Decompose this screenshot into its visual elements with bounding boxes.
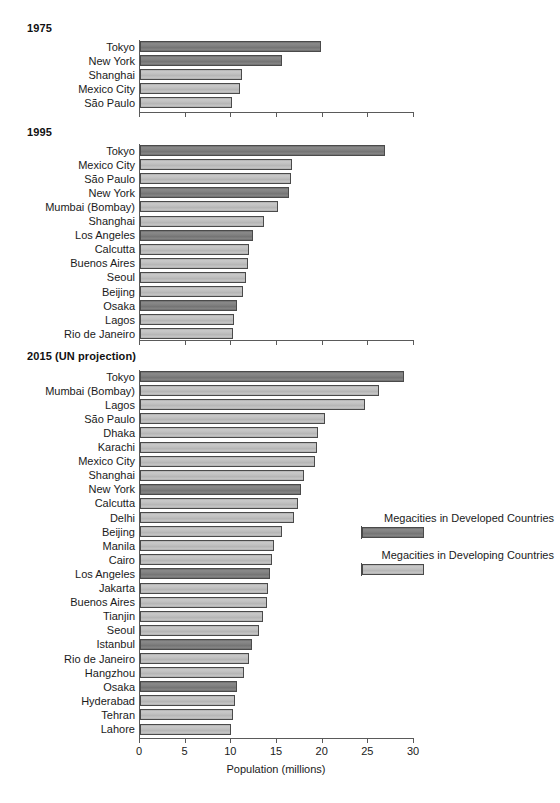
bar-label: Lagos (105, 399, 135, 410)
x-axis-tick (322, 112, 323, 117)
bar-label: Rio de Janeiro (64, 328, 135, 339)
bar-row: Osaka (140, 300, 414, 311)
bar (140, 41, 321, 52)
bar-row: Tokyo (140, 145, 414, 156)
bar-label: New York (89, 55, 135, 66)
bar (140, 328, 233, 339)
panel-title-3: 2015 (UN projection) (27, 350, 136, 362)
bar-row: Dhaka (140, 427, 414, 438)
bar-label: Beijing (102, 526, 135, 537)
bar-row: Tokyo (140, 41, 414, 52)
bar (140, 371, 404, 382)
bar-row: Rio de Janeiro (140, 328, 414, 339)
x-axis-tick (185, 112, 186, 117)
x-axis-2 (139, 340, 414, 341)
plot-area-1: TokyoNew YorkShanghaiMexico CitySão Paul… (139, 40, 413, 113)
bar-row: Lagos (140, 314, 414, 325)
bar-row: Rio de Janeiro (140, 653, 414, 664)
legend-label: Megacities in Developing Countries (340, 549, 554, 562)
bar-label: New York (89, 484, 135, 495)
bar (140, 216, 264, 227)
legend-swatch-row (340, 527, 554, 539)
bar-row: Shanghai (140, 69, 414, 80)
x-axis-tick (230, 340, 231, 345)
x-axis-tick (322, 340, 323, 345)
bar-label: São Paulo (84, 413, 135, 424)
bar-row: São Paulo (140, 97, 414, 108)
bar (140, 69, 242, 80)
bar-row: Lagos (140, 399, 414, 410)
bar-row: Mexico City (140, 159, 414, 170)
x-axis-tick (139, 112, 140, 117)
bar-row: Calcutta (140, 244, 414, 255)
bar (140, 625, 259, 636)
x-axis-tick (185, 340, 186, 345)
bar (140, 230, 253, 241)
megacities-population-chart: 1975TokyoNew YorkShanghaiMexico CitySão … (0, 0, 560, 803)
bar (140, 314, 234, 325)
bar (140, 568, 270, 579)
x-axis-tick (367, 340, 368, 345)
x-axis-3: 051015202530 (139, 738, 414, 739)
bar-label: Cairo (109, 554, 135, 565)
x-axis-tick (413, 112, 414, 117)
bar-label: Osaka (103, 681, 135, 692)
x-axis-tick (413, 340, 414, 345)
bar (140, 695, 235, 706)
bar-label: Hangzhou (85, 667, 135, 678)
bar-label: Seoul (107, 272, 135, 283)
bar (140, 597, 267, 608)
bar-label: Hyderabad (81, 695, 135, 706)
bar-label: Shanghai (89, 470, 136, 481)
bar (140, 427, 318, 438)
x-axis-tick (367, 112, 368, 117)
bar-label: Delhi (110, 512, 135, 523)
bar (140, 159, 292, 170)
legend-swatch-developed (362, 527, 424, 538)
bar (140, 512, 294, 523)
bar-row: Hyderabad (140, 695, 414, 706)
bar (140, 385, 379, 396)
bar-row: Mumbai (Bombay) (140, 385, 414, 396)
bar-label: Mexico City (78, 83, 135, 94)
bar-label: Los Angeles (75, 568, 135, 579)
bar-row: Seoul (140, 272, 414, 283)
bar-row: Tokyo (140, 371, 414, 382)
x-axis-tick (276, 112, 277, 117)
bar-row: Los Angeles (140, 230, 414, 241)
x-axis-tick-label: 20 (316, 745, 328, 757)
bar-label: Osaka (103, 300, 135, 311)
bar (140, 709, 233, 720)
x-axis-tick-label: 0 (136, 745, 142, 757)
bar-row: Lahore (140, 724, 414, 735)
bar-label: Mumbai (Bombay) (45, 201, 135, 212)
legend-swatch-row (340, 564, 554, 576)
bar (140, 724, 231, 735)
legend-swatch-developing (362, 564, 424, 575)
x-axis-tick (185, 738, 186, 743)
bar (140, 639, 252, 650)
bar-row: Istanbul (140, 639, 414, 650)
bar (140, 442, 317, 453)
bar-label: Dhaka (103, 427, 135, 438)
chart-legend: Megacities in Developed CountriesMegacit… (340, 512, 554, 586)
legend-entry: Megacities in Developing Countries (340, 549, 554, 576)
bar-label: Los Angeles (75, 230, 135, 241)
bar-row: New York (140, 55, 414, 66)
bar (140, 498, 298, 509)
bar-label: Tehran (101, 709, 135, 720)
bar-label: Seoul (107, 625, 135, 636)
bar-label: Manila (103, 540, 135, 551)
bar-row: Shanghai (140, 216, 414, 227)
bar (140, 286, 243, 297)
bar-label: New York (89, 187, 135, 198)
bar (140, 55, 282, 66)
x-axis-tick (322, 738, 323, 743)
x-axis-title: Population (millions) (226, 763, 325, 775)
bar-label: Buenos Aires (70, 597, 135, 608)
bar (140, 681, 237, 692)
bar-row: São Paulo (140, 173, 414, 184)
bar-label: Tokyo (106, 371, 135, 382)
bar (140, 653, 249, 664)
bar (140, 244, 249, 255)
